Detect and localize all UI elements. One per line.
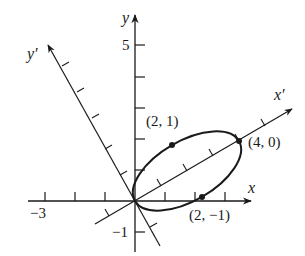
y-prime-axis xyxy=(48,45,160,246)
y-prime-axis-label: y′ xyxy=(27,46,38,62)
y-tick-label-neg1: −1 xyxy=(112,225,128,240)
point-2-1 xyxy=(169,142,175,148)
rotated-ellipse-diagram: x y x′ y′ 5 −3 −1 (2, 1) (4, 0) (2, −1) xyxy=(0,0,305,256)
point-4-0 xyxy=(236,138,242,144)
y-tick-label-5: 5 xyxy=(122,38,130,53)
x-prime-axis-label: x′ xyxy=(274,87,285,103)
x-axis xyxy=(28,192,251,201)
x-tick-label-neg3: −3 xyxy=(30,206,46,221)
point-label-2-1: (2, 1) xyxy=(146,114,179,129)
y-prime-axis-ticks xyxy=(62,62,157,227)
point-2-neg1 xyxy=(199,194,205,200)
y-axis-label: y xyxy=(122,10,129,26)
point-label-4-0: (4, 0) xyxy=(248,135,281,150)
x-axis-label: x xyxy=(248,180,255,196)
point-label-2-neg1: (2, −1) xyxy=(189,208,230,223)
